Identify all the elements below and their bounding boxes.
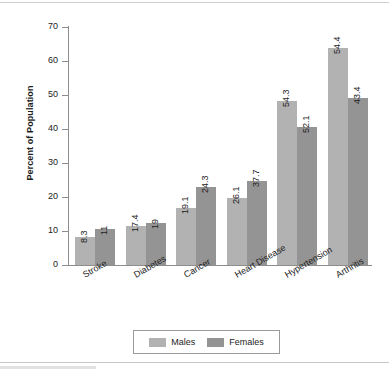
y-axis-tick-label: 70 <box>28 21 58 31</box>
bar-hypertension-males <box>277 101 297 265</box>
bar-value-label: 37.7 <box>251 170 261 188</box>
y-axis-tick-label: 10 <box>28 225 58 235</box>
y-axis-tick <box>62 129 69 130</box>
legend-label-males: Males <box>171 337 195 347</box>
y-axis-tick <box>62 27 69 28</box>
bar-value-label: 24.3 <box>200 175 210 193</box>
bar-hypertension-females <box>297 127 317 265</box>
legend-swatch-females <box>207 338 224 347</box>
chart-figure: Percent of Population 010203040506070 8.… <box>0 0 389 375</box>
y-axis-tick <box>62 265 69 266</box>
chart-legend: Males Females <box>133 330 280 354</box>
plot-area: Percent of Population 010203040506070 8.… <box>0 0 389 375</box>
y-axis-line <box>68 26 69 266</box>
y-axis-tick <box>62 163 69 164</box>
bar-value-label: 19.1 <box>180 196 190 214</box>
y-axis-tick-label: 50 <box>28 89 58 99</box>
bar-arthritis-females <box>348 98 368 265</box>
bar-arthritis-males <box>328 48 348 265</box>
y-axis-tick <box>62 231 69 232</box>
y-axis-title: Percent of Population <box>25 58 35 208</box>
bar-value-label: 17.4 <box>130 214 140 232</box>
y-axis-tick-label: 60 <box>28 55 58 65</box>
legend-item-females: Females <box>207 337 264 347</box>
bar-value-label: 54.4 <box>332 37 342 55</box>
bar-value-label: 11 <box>99 225 109 234</box>
bar-value-label: 26.1 <box>231 187 241 205</box>
bar-cancer-females <box>196 187 216 265</box>
bar-value-label: 19 <box>150 218 160 228</box>
bar-value-label: 8.3 <box>79 230 89 243</box>
bar-cancer-males <box>176 208 196 265</box>
y-axis-tick-label: 0 <box>28 259 58 269</box>
x-axis-line <box>68 265 372 266</box>
legend-swatch-males <box>149 338 166 347</box>
legend-label-females: Females <box>229 337 264 347</box>
y-axis-tick <box>62 197 69 198</box>
legend-item-males: Males <box>149 337 195 347</box>
bar-value-label: 52.1 <box>301 116 311 134</box>
bar-value-label: 54.3 <box>281 90 291 108</box>
y-axis-tick <box>62 61 69 62</box>
y-axis-tick-label: 40 <box>28 123 58 133</box>
y-axis-tick <box>62 95 69 96</box>
bar-value-label: 43.4 <box>352 86 362 104</box>
y-axis-tick-label: 30 <box>28 157 58 167</box>
bar-heart-disease-males <box>227 198 247 265</box>
y-axis-tick-label: 20 <box>28 191 58 201</box>
